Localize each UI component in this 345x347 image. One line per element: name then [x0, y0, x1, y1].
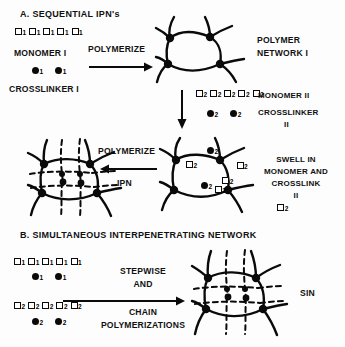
monomer-square-icon: 2: [28, 302, 39, 309]
monomer-square-icon: 1: [57, 28, 68, 35]
swell-label-line3: CROSSLINK: [250, 179, 342, 188]
sin-label: SIN: [300, 288, 315, 298]
panel-b-crosslinker-i-symbols: 1 1: [32, 273, 66, 280]
polymerize-label-1: POLYMERIZE: [88, 44, 145, 54]
crosslinker-dot-icon: 2: [230, 110, 241, 117]
monomer-square-icon: 2: [196, 90, 207, 97]
crosslinker-dot-icon: 2: [207, 110, 218, 117]
monomer-square-icon: 2: [215, 186, 226, 193]
crosslinker-dot-icon: 1: [32, 67, 43, 74]
swell-label-line2: MONOMER AND: [250, 167, 342, 176]
polymer-network-i-label-line1: POLYMER: [257, 35, 300, 45]
crosslinker-ii-label-line2: II: [284, 120, 289, 129]
polymer-network-i-graph: [156, 16, 248, 90]
monomer-square-icon: 2: [210, 90, 221, 97]
arrow-down-1: [176, 90, 190, 130]
crosslinker-dot-icon: 1: [55, 67, 66, 74]
crosslinker-dot-icon: 1: [32, 273, 43, 280]
crosslinker-i-symbols: 1 1: [32, 67, 66, 74]
crosslinker-dot-icon: 2: [201, 182, 212, 189]
monomer-square-icon: 2: [222, 177, 233, 184]
swell-label-line1: SWELL IN: [250, 155, 342, 164]
monomer-i-label: MONOMER I: [14, 48, 66, 58]
panel-b-monomer-i-symbols: 1 1 1 1 1: [14, 258, 82, 265]
monomer-square-icon: 1: [71, 258, 82, 265]
monomer-i-symbols: 1 1 1 1 1: [15, 28, 83, 35]
ipn-network-graph: [28, 138, 122, 218]
polymer-network-i-label-line2: NETWORK I: [257, 48, 308, 58]
monomer-square-icon: 1: [72, 28, 83, 35]
sin-network-graph: [192, 248, 288, 336]
monomer-ii-symbols: 2 2 2 2 2: [196, 90, 264, 97]
monomer-square-icon: 1: [28, 258, 39, 265]
monomer-square-icon: 2: [277, 204, 288, 211]
crosslinker-ii-symbols: 2 2: [207, 110, 241, 117]
monomer-square-icon: 1: [14, 258, 25, 265]
swell-label-line4: II: [250, 191, 342, 200]
monomer-square-icon: 1: [15, 28, 26, 35]
monomer-square-icon: 1: [42, 258, 53, 265]
crosslinker-ii-label-line1: CROSSLINKER: [258, 108, 318, 117]
arrow-right-1: [88, 62, 154, 72]
monomer-square-icon: 2: [186, 161, 197, 168]
crosslinker-dot-icon: 2: [207, 147, 218, 154]
stepwise-label-line1: STEPWISE: [104, 266, 182, 276]
monomer-ii-label: MONOMER II: [258, 91, 309, 100]
panel-b-crosslinker-ii-symbols: 2 2: [32, 318, 66, 325]
panel-b-heading: B. SIMULTANEOUS INTERPENETRATING NETWORK: [20, 230, 257, 240]
crosslinker-dot-icon: 2: [32, 318, 43, 325]
crosslinker-dot-icon: 1: [55, 273, 66, 280]
crosslinker-i-label: CROSSLINKER I: [9, 84, 79, 94]
monomer-square-icon: 1: [29, 28, 40, 35]
monomer-square-icon: 2: [238, 90, 249, 97]
arrow-right-2: [62, 296, 186, 306]
chain-label-line1: CHAIN: [104, 307, 182, 317]
monomer-square-icon: 1: [56, 258, 67, 265]
stepwise-label-line2: AND: [104, 279, 182, 289]
monomer-square-icon: 2: [224, 90, 235, 97]
monomer-square-icon: 2: [14, 302, 25, 309]
monomer-square-icon: 1: [43, 28, 54, 35]
panel-a-heading: A. SEQUENTIAL IPN's: [20, 9, 120, 19]
monomer-square-icon: 2: [42, 302, 53, 309]
monomer-square-icon: 2: [237, 162, 248, 169]
